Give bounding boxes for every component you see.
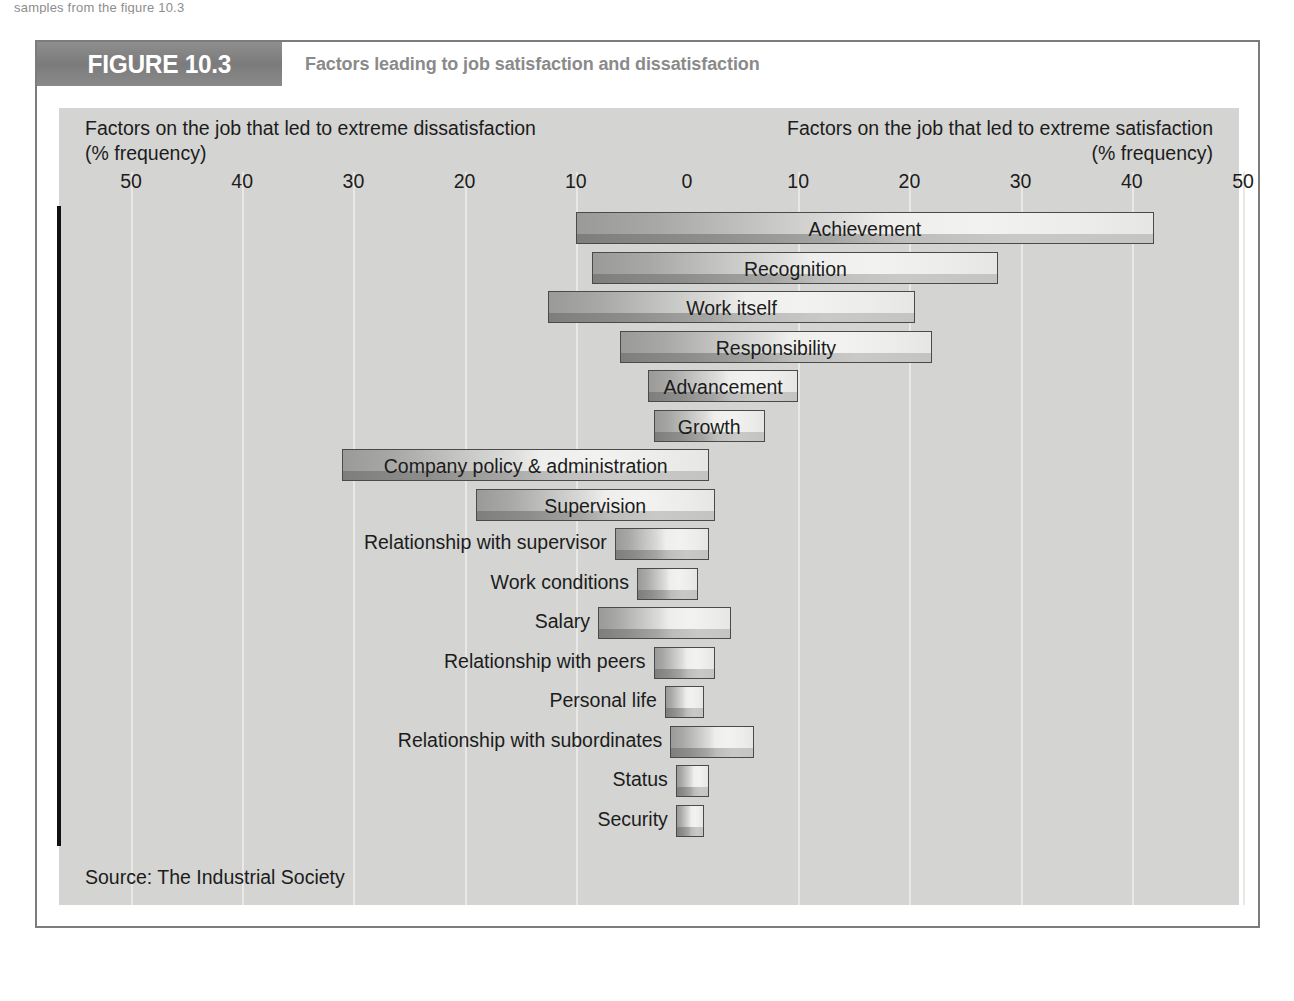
bar-row[interactable]: Growth — [59, 408, 1239, 444]
bar-row[interactable]: Advancement — [59, 368, 1239, 404]
bar-row[interactable]: Responsibility — [59, 329, 1239, 365]
bar[interactable]: Achievement — [576, 212, 1154, 244]
axis-heading-right: Factors on the job that led to extreme s… — [787, 116, 1213, 166]
bar-label: Achievement — [577, 213, 1153, 245]
bar[interactable] — [665, 686, 704, 718]
bar-row[interactable]: Relationship with subordinates — [59, 724, 1239, 760]
bar[interactable]: Responsibility — [620, 331, 931, 363]
bar-row[interactable]: Security — [59, 803, 1239, 839]
tick-label-7: 20 — [899, 170, 921, 193]
figure-title: Factors leading to job satisfaction and … — [305, 42, 760, 86]
bar-row[interactable]: Work itself — [59, 289, 1239, 325]
tick-label-10: 50 — [1232, 170, 1254, 193]
figure-number-label: FIGURE 10.3 — [88, 49, 232, 80]
bar[interactable] — [670, 726, 753, 758]
bar[interactable]: Growth — [654, 410, 765, 442]
bar-row[interactable]: Work conditions — [59, 566, 1239, 602]
bar[interactable] — [637, 568, 698, 600]
axis-heading-left-line2: (% frequency) — [85, 141, 536, 166]
bar-row[interactable]: Company policy & administration — [59, 447, 1239, 483]
tick-label-3: 20 — [454, 170, 476, 193]
bar[interactable]: Advancement — [648, 370, 798, 402]
bar[interactable] — [615, 528, 710, 560]
bar[interactable] — [676, 805, 704, 837]
tick-label-0: 50 — [120, 170, 142, 193]
bar[interactable] — [676, 765, 709, 797]
bar[interactable] — [654, 647, 715, 679]
chart-panel: Factors on the job that led to extreme d… — [59, 108, 1239, 905]
bar-label: Supervision — [477, 490, 714, 522]
bar-label: Growth — [655, 411, 764, 443]
tick-label-1: 40 — [231, 170, 253, 193]
bar-row[interactable]: Status — [59, 763, 1239, 799]
bar-label: Company policy & administration — [343, 450, 708, 482]
bar-label: Relationship with supervisor — [59, 526, 607, 558]
figure-frame: FIGURE 10.3 Factors leading to job satis… — [35, 40, 1260, 928]
axis-heading-left: Factors on the job that led to extreme d… — [85, 116, 536, 166]
source-note: Source: The Industrial Society — [85, 866, 345, 889]
tick-label-2: 30 — [343, 170, 365, 193]
page-top-cut-text: samples from the figure 10.3 — [14, 0, 184, 14]
bar-label: Relationship with peers — [59, 645, 646, 677]
tick-label-5: 0 — [682, 170, 693, 193]
tick-label-6: 10 — [787, 170, 809, 193]
bar-row[interactable]: Relationship with peers — [59, 645, 1239, 681]
plot-area: AchievementRecognitionWork itselfRespons… — [59, 206, 1239, 846]
bar-label: Personal life — [59, 684, 657, 716]
bar-row[interactable]: Relationship with supervisor — [59, 526, 1239, 562]
bar-row[interactable]: Supervision — [59, 487, 1239, 523]
bar-row[interactable]: Salary — [59, 605, 1239, 641]
axis-heading-right-line2: (% frequency) — [787, 141, 1213, 166]
bar-row[interactable]: Recognition — [59, 250, 1239, 286]
bar-row[interactable]: Personal life — [59, 684, 1239, 720]
bar-label: Responsibility — [621, 332, 930, 364]
gridline-50-right — [1243, 172, 1245, 905]
bar[interactable]: Recognition — [592, 252, 998, 284]
tick-label-4: 10 — [565, 170, 587, 193]
tick-label-9: 40 — [1121, 170, 1143, 193]
tick-label-8: 30 — [1010, 170, 1032, 193]
bar[interactable]: Supervision — [476, 489, 715, 521]
figure-number-band: FIGURE 10.3 — [37, 42, 282, 86]
bar[interactable]: Company policy & administration — [342, 449, 709, 481]
bar-row[interactable]: Achievement — [59, 210, 1239, 246]
bar[interactable] — [598, 607, 731, 639]
bar-label: Advancement — [649, 371, 797, 403]
axis-heading-right-line1: Factors on the job that led to extreme s… — [787, 116, 1213, 141]
figure-header: FIGURE 10.3 Factors leading to job satis… — [37, 42, 1258, 86]
bar[interactable]: Work itself — [548, 291, 915, 323]
bar-label: Security — [59, 803, 668, 835]
bar-label: Relationship with subordinates — [59, 724, 662, 756]
bar-label: Status — [59, 763, 668, 795]
bar-label: Work conditions — [59, 566, 629, 598]
bar-label: Recognition — [593, 253, 997, 285]
bar-label: Work itself — [549, 292, 914, 324]
axis-heading-left-line1: Factors on the job that led to extreme d… — [85, 116, 536, 141]
bar-label: Salary — [59, 605, 590, 637]
